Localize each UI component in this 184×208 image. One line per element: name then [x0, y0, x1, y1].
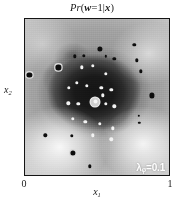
scatter-point-class1	[111, 126, 114, 129]
scatter-point-class0	[70, 134, 73, 137]
scatter-point-class0	[43, 134, 46, 137]
x-axis-tick-max: 1	[168, 178, 173, 189]
scatter-points-layer	[25, 19, 169, 175]
scatter-point-class1	[104, 102, 107, 105]
lambda-annotation: λφ=0.1	[136, 162, 165, 173]
x-axis-label: x1	[93, 186, 101, 198]
y-axis-label-subscript: 2	[8, 89, 11, 96]
scatter-point-class0	[139, 70, 142, 73]
title-equals-one: =1|	[91, 2, 105, 13]
scatter-point-class1	[77, 102, 80, 105]
scatter-point-class0	[133, 43, 136, 46]
scatter-point-class1	[104, 72, 107, 75]
scatter-point-class1	[101, 94, 104, 97]
scatter-point-class1	[84, 120, 87, 123]
scatter-point-class1	[67, 86, 70, 89]
scatter-point-class1	[71, 117, 74, 120]
scatter-point-class0	[104, 55, 106, 57]
scatter-point-class0	[149, 93, 154, 98]
x-axis-label-subscript: 1	[98, 191, 101, 198]
scatter-point-class1	[91, 134, 94, 137]
scatter-point-class0	[70, 151, 75, 156]
scatter-point-class1	[80, 66, 83, 69]
scatter-point-class0	[138, 122, 140, 124]
heatmap-plot-area: λφ=0.1	[24, 18, 170, 176]
scatter-point-class0	[27, 73, 32, 78]
scatter-point-class1	[110, 137, 113, 140]
scatter-point-class1	[91, 64, 94, 67]
figure-container: Pr(w=1|x) λφ=0.1 x2 x1 0 1	[0, 0, 184, 208]
scatter-point-class1	[85, 84, 88, 87]
scatter-point-class1	[75, 81, 78, 84]
scatter-point-class0	[135, 59, 138, 62]
scatter-point-class0	[97, 46, 102, 51]
y-axis-label: x2	[4, 84, 12, 96]
scatter-point-class0	[73, 55, 76, 58]
scatter-point-class0	[113, 57, 116, 60]
scatter-point-class0	[82, 54, 85, 57]
scatter-point-class1	[98, 122, 101, 125]
scatter-point-class0	[56, 65, 61, 70]
x-axis-tick-min: 0	[22, 178, 27, 189]
chart-title: Pr(w=1|x)	[0, 1, 184, 15]
scatter-point-class1	[66, 102, 69, 105]
scatter-point-class1	[100, 86, 103, 89]
title-close-paren: )	[110, 2, 114, 13]
title-prefix: Pr	[70, 2, 81, 13]
scatter-point-class1	[110, 88, 113, 91]
scatter-point-class1	[113, 105, 116, 108]
scatter-point-class0	[88, 165, 91, 168]
scatter-point-class0	[138, 115, 140, 117]
scatter-point-center-highlight	[91, 97, 100, 106]
lambda-value: =0.1	[146, 162, 165, 173]
